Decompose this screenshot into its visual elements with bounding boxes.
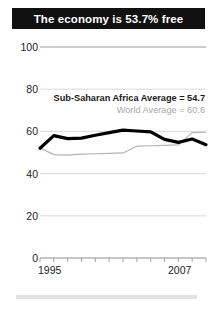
y-axis-tick-label: 40	[4, 169, 38, 180]
x-axis-label-start: 1995	[38, 265, 61, 276]
line-chart: 020406080100 1995 2007 Sub-Saharan Afric…	[0, 0, 215, 310]
series-line-sub-saharan-africa	[40, 130, 206, 148]
y-axis-tick-label: 20	[4, 211, 38, 222]
x-axis-ticks	[40, 258, 206, 262]
chart-page: The economy is 53.7% free 020406080100 1…	[0, 0, 215, 310]
series-line-world	[40, 132, 206, 155]
legend-item-world: World Average = 60.6	[44, 105, 205, 117]
y-axis-tick-label: 60	[4, 126, 38, 137]
y-axis-tick-label: 0	[4, 253, 38, 264]
chart-legend: Sub-Saharan Africa Average = 54.7 World …	[44, 93, 205, 116]
legend-item-sub-saharan-africa: Sub-Saharan Africa Average = 54.7	[44, 93, 205, 105]
y-axis-labels: 020406080100	[0, 0, 38, 310]
x-axis-label-end: 2007	[168, 265, 191, 276]
y-axis-tick-label: 80	[4, 84, 38, 95]
bottom-divider	[16, 295, 197, 299]
y-axis-tick-label: 100	[4, 42, 38, 53]
